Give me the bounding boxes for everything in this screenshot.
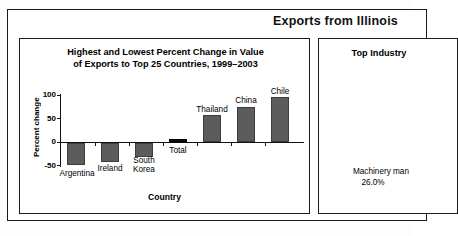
- y-axis-title: Percent change: [31, 96, 43, 158]
- bar-ireland: [101, 143, 119, 162]
- y-tick-50: [57, 118, 61, 119]
- y-tick-label-0: 0: [32, 138, 56, 146]
- bar-label-ireland: Ireland: [88, 164, 132, 173]
- y-tick-neg50: [57, 165, 61, 166]
- bar-label-thailand: Thailand: [190, 105, 234, 114]
- x-axis-title: Country: [19, 192, 310, 202]
- bar-china: [237, 107, 255, 142]
- y-tick-label-100: 100: [32, 91, 56, 99]
- chart-title-line-1: Highest and Lowest Percent Change in Val…: [28, 46, 303, 58]
- page-title: Exports from Illinois: [0, 14, 398, 28]
- bar-chile: [271, 97, 289, 142]
- bar-south-korea: [135, 143, 153, 157]
- bar-total: [169, 139, 187, 142]
- y-axis-line: [60, 94, 61, 167]
- x-axis-baseline: [60, 142, 304, 144]
- bar-thailand: [203, 115, 221, 142]
- chart-title: Highest and Lowest Percent Change in Val…: [28, 46, 303, 70]
- chart-panel: Highest and Lowest Percent Change in Val…: [19, 38, 310, 214]
- bar-label-china: China: [228, 96, 264, 105]
- x-tick-6: [265, 143, 266, 146]
- bar-argentina: [67, 143, 85, 165]
- x-tick-2: [129, 143, 130, 146]
- y-tick-label-50: 50: [32, 115, 56, 123]
- top-industry-value: 26.0%: [319, 177, 427, 188]
- top-industry-panel: Top Industry Machinery man 26.0%: [318, 38, 458, 214]
- top-industry-title: Top Industry: [319, 48, 439, 58]
- x-tick-4: [197, 143, 198, 146]
- x-tick-5: [231, 143, 232, 146]
- top-industry-label: Machinery man: [319, 166, 443, 177]
- y-tick-100: [57, 95, 61, 96]
- x-tick-1: [95, 143, 96, 146]
- bar-label-south-korea: SouthKorea: [128, 157, 160, 174]
- bar-label-chile: Chile: [263, 87, 297, 96]
- chart-title-line-2: of Exports to Top 25 Countries, 1999–200…: [28, 58, 303, 70]
- bar-label-total: Total: [161, 146, 195, 155]
